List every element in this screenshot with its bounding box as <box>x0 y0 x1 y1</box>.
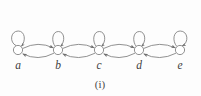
self-loop-d <box>134 32 145 47</box>
edge-d-to-e <box>144 44 175 48</box>
self-loop-b <box>53 32 64 47</box>
edge-e-to-d <box>144 53 176 57</box>
self-loop-c <box>94 32 105 47</box>
edge-d-to-c <box>104 53 135 57</box>
graph-diagram: a b c d e (i) <box>0 0 201 96</box>
node-a[interactable] <box>13 45 22 54</box>
node-labels-layer: a b c d e <box>15 59 182 71</box>
node-label-d: d <box>136 59 142 71</box>
edge-c-to-b <box>63 53 95 57</box>
node-c[interactable] <box>94 45 103 54</box>
self-loop-a <box>12 31 25 46</box>
node-label-e: e <box>177 59 182 71</box>
node-b[interactable] <box>53 45 62 54</box>
figure-caption: (i) <box>95 78 106 91</box>
figure-container: a b c d e (i) <box>0 0 201 96</box>
node-label-c: c <box>96 59 101 71</box>
nodes-layer <box>13 45 184 54</box>
node-label-a: a <box>15 59 21 71</box>
node-label-b: b <box>55 59 61 71</box>
edge-b-to-c <box>63 44 94 48</box>
edge-a-to-b <box>23 44 53 48</box>
node-e[interactable] <box>175 45 184 54</box>
edge-b-to-a <box>23 53 54 57</box>
edge-c-to-d <box>104 44 134 48</box>
self-loop-e <box>174 31 187 46</box>
node-d[interactable] <box>134 45 143 54</box>
